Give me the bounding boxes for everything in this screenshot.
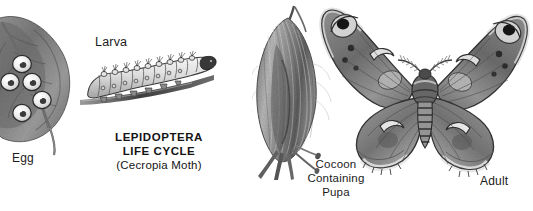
label-cocoon-line2: Containing bbox=[296, 171, 376, 185]
title-line-life-cycle: LIFE CYCLE bbox=[104, 145, 214, 159]
larva-illustration bbox=[78, 48, 220, 110]
page-title: LEPIDOPTERA LIFE CYCLE (Cecropia Moth) bbox=[104, 131, 214, 172]
label-cocoon-line1: Cocoon bbox=[296, 157, 376, 171]
egg-on-leaf-illustration bbox=[0, 8, 90, 156]
adult-moth-illustration bbox=[318, 2, 532, 178]
label-larva: Larva bbox=[95, 36, 127, 49]
title-line-lepidoptera: LEPIDOPTERA bbox=[104, 131, 214, 145]
label-cocoon-line3: Pupa bbox=[296, 185, 376, 199]
title-line-species: (Cecropia Moth) bbox=[104, 158, 214, 172]
label-adult: Adult bbox=[480, 175, 508, 188]
label-egg: Egg bbox=[12, 152, 34, 165]
label-cocoon-containing-pupa: Cocoon Containing Pupa bbox=[296, 157, 376, 199]
